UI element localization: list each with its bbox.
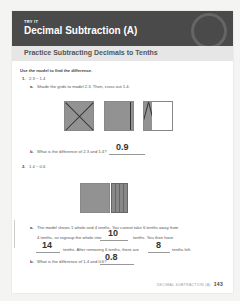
problem-2a-letter: a. — [30, 225, 34, 230]
problem-1a-text: Shade the grids to model 2.3. Then, cros… — [37, 84, 130, 89]
cross-line — [148, 102, 152, 130]
margin-line — [14, 220, 15, 248]
model-whole-grid — [80, 183, 110, 213]
answer-line — [148, 252, 170, 253]
page-number: 143 — [214, 281, 223, 287]
problem-1-expression: 2.3 − 1.4 — [29, 76, 45, 81]
problem-2-expression: 1.4 − 0.6 — [29, 164, 45, 169]
tenth-strip — [123, 183, 128, 213]
problem-1b-answer[interactable]: 0.9 — [116, 142, 129, 152]
page-header: TRY IT Decimal Subtraction (A) — [12, 11, 233, 46]
shaded-area — [81, 184, 109, 212]
problem-2b-letter: b. — [30, 259, 34, 264]
problem-1a-letter: a. — [30, 84, 34, 89]
footer-label: DECIMAL SUBTRACTION (A) — [157, 283, 211, 287]
cross-line — [130, 102, 131, 130]
instructions: Use the model to find the difference. — [20, 68, 92, 73]
grid-1-full-crossed — [64, 101, 94, 131]
answer-line — [109, 154, 145, 155]
problem-1b-letter: b. — [30, 149, 34, 154]
problem-1b-text: What is the difference of 2.3 and 1.4? — [37, 149, 107, 154]
section-band: Practice Subtracting Decimals to Tenths — [12, 46, 233, 61]
problem-2a-line3-mid: tenths. After removing 6 tenths, there a… — [63, 247, 139, 252]
problem-2a-answer-3[interactable]: 8 — [156, 240, 161, 250]
section-title: Practice Subtracting Decimals to Tenths — [24, 49, 158, 56]
grid-2-full — [104, 101, 134, 131]
answer-line — [100, 240, 128, 241]
grid-3-partial — [143, 101, 173, 131]
header-kicker: TRY IT — [24, 19, 38, 24]
problem-2a-answer-1[interactable]: 10 — [108, 228, 118, 238]
answer-line — [36, 252, 60, 253]
problem-2b-text: What is the difference of 1.4 and 0.6? — [37, 259, 107, 264]
gear-decoration-icon — [191, 13, 227, 46]
problem-1-number: 1. — [22, 76, 26, 81]
problem-2a-answer-2[interactable]: 14 — [42, 240, 52, 250]
page-title: Decimal Subtraction (A) — [24, 25, 137, 36]
cross-area — [144, 102, 152, 130]
worksheet-page: TRY IT Decimal Subtraction (A) Practice … — [12, 11, 233, 293]
problem-2a-line2-post: tenths. You then have — [133, 235, 173, 240]
problem-2b-answer[interactable]: 0.8 — [105, 252, 118, 262]
answer-line — [100, 264, 134, 265]
page-footer: DECIMAL SUBTRACTION (A)143 — [157, 281, 223, 287]
problem-2a-line3-post: tenths left. — [172, 247, 191, 252]
problem-2-number: 2. — [22, 164, 26, 169]
